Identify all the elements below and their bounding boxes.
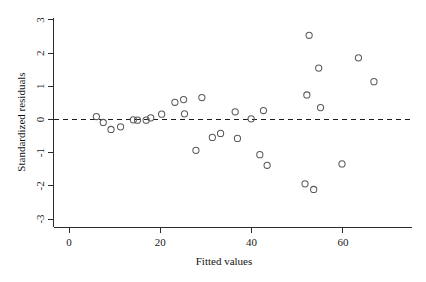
y-tick-label: 0	[34, 116, 46, 122]
data-point-marker	[180, 97, 186, 103]
plot-canvas: -3-2-10123 0204060 Fitted values Standar…	[0, 0, 426, 282]
data-point-marker	[257, 152, 263, 158]
x-tick-label: 60	[337, 236, 349, 248]
x-tick-label: 40	[246, 236, 258, 248]
x-tick-label: 0	[66, 236, 72, 248]
data-point-marker	[371, 79, 377, 85]
data-point-marker	[311, 186, 317, 192]
data-point-marker	[172, 99, 178, 105]
y-axis-title: Standardized residuals	[15, 72, 27, 171]
y-tick-group: -3-2-10123	[34, 17, 54, 224]
y-tick-label: 1	[34, 84, 46, 90]
data-point-marker	[248, 116, 254, 122]
data-point-marker	[181, 111, 187, 117]
data-point-marker	[209, 134, 215, 140]
data-point-marker	[199, 95, 205, 101]
x-tick-label: 20	[155, 236, 167, 248]
data-point-marker	[159, 111, 165, 117]
y-tick-label: -3	[34, 214, 46, 224]
data-points-group	[93, 32, 377, 192]
data-point-marker	[304, 92, 310, 98]
y-tick-label: -1	[34, 148, 46, 157]
data-point-marker	[108, 126, 114, 132]
data-point-marker	[302, 181, 308, 187]
data-point-marker	[339, 161, 345, 167]
data-point-marker	[93, 113, 99, 119]
data-point-marker	[355, 55, 361, 61]
y-tick-label: -2	[34, 181, 46, 190]
data-point-marker	[317, 104, 323, 110]
x-tick-group: 0204060	[66, 228, 349, 249]
data-point-marker	[234, 135, 240, 141]
data-point-marker	[260, 107, 266, 113]
data-point-marker	[316, 65, 322, 71]
y-tick-label: 2	[34, 50, 46, 56]
data-point-marker	[232, 109, 238, 115]
axes-group	[54, 18, 413, 228]
residual-plot-figure: -3-2-10123 0204060 Fitted values Standar…	[0, 0, 426, 282]
data-point-marker	[100, 119, 106, 125]
y-tick-label: 3	[34, 17, 46, 23]
data-point-marker	[306, 32, 312, 38]
data-point-marker	[217, 130, 223, 136]
data-point-marker	[193, 147, 199, 153]
data-point-marker	[134, 117, 140, 123]
x-axis-title: Fitted values	[196, 255, 253, 267]
data-point-marker	[117, 124, 123, 130]
data-point-marker	[264, 162, 270, 168]
